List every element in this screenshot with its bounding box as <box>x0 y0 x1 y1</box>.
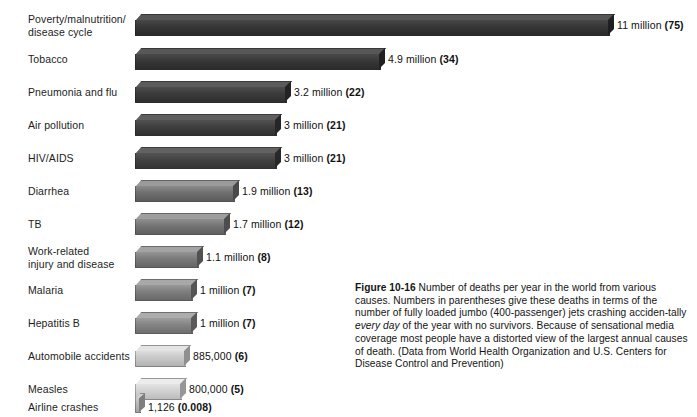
value-text: 3.2 million <box>294 86 342 98</box>
bar-3d-body <box>135 345 185 367</box>
value-text: 1,126 <box>148 401 175 413</box>
value-label: 3 million (21) <box>284 152 346 164</box>
bar-3d-body <box>135 213 225 235</box>
bar-front-face <box>135 219 226 235</box>
category-label: Pneumonia and flu <box>28 86 132 99</box>
value-text: 1.9 million <box>242 185 290 197</box>
bar-front-face <box>135 54 381 70</box>
value-text: 1.1 million <box>206 251 254 263</box>
bar-3d-body <box>135 14 609 36</box>
value-paren: (34) <box>439 53 458 65</box>
bar-hepatitis-b <box>135 312 192 334</box>
category-label: Measles <box>28 383 132 396</box>
chart-row: Air pollution 3 million (21) <box>0 108 697 142</box>
value-label: 1.1 million (8) <box>206 251 271 263</box>
value-paren: (22) <box>345 86 364 98</box>
value-text: 1.7 million <box>233 218 281 230</box>
category-label: Malaria <box>28 284 132 297</box>
value-paren: (0.008) <box>178 401 212 413</box>
category-label: Diarrhea <box>28 185 132 198</box>
value-paren: (8) <box>257 251 270 263</box>
bar-air-pollution <box>135 114 276 136</box>
value-text: 800,000 <box>189 383 228 395</box>
value-label: 800,000 (5) <box>189 383 244 395</box>
value-paren: (6) <box>235 350 248 362</box>
bar-poverty-malnutrition-disease-cycle <box>135 14 609 36</box>
chart-row: Pneumonia and flu 3.2 million (22) <box>0 75 697 109</box>
bar-3d-body <box>135 312 192 334</box>
category-label: Airline crashes <box>28 401 132 414</box>
value-label: 3.2 million (22) <box>294 86 364 98</box>
category-label: Automobile accidents <box>28 350 132 363</box>
caption-emphasis: every day <box>355 320 400 331</box>
bar-front-face <box>135 20 610 36</box>
chart-row: Airline crashes 1,126 (0.008) <box>0 405 697 417</box>
value-text: 1 million <box>200 284 239 296</box>
value-paren: (13) <box>293 185 312 197</box>
bar-front-face <box>135 318 193 334</box>
value-paren: (21) <box>326 119 345 131</box>
bar-malaria <box>135 279 192 301</box>
value-text: 3 million <box>284 152 323 164</box>
figure-number: Figure 10-16 <box>355 282 416 293</box>
bar-3d-body <box>135 279 192 301</box>
value-label: 1,126 (0.008) <box>148 401 212 413</box>
bar-3d-body <box>135 81 286 103</box>
bar-front-face <box>135 153 277 169</box>
bar-hiv-aids <box>135 147 276 169</box>
bar-automobile-accidents <box>135 345 185 367</box>
value-paren: (12) <box>284 218 303 230</box>
bar-front-face <box>135 351 186 367</box>
bar-airline-crashes <box>135 393 140 413</box>
figure-caption: Figure 10-16 Number of deaths per year i… <box>355 282 691 371</box>
value-paren: (7) <box>242 284 255 296</box>
chart-row: Diarrhea 1.9 million (13) <box>0 174 697 208</box>
bar-diarrhea <box>135 180 234 202</box>
category-label: HIV/AIDS <box>28 152 132 165</box>
category-label: Air pollution <box>28 119 132 132</box>
bar-tb <box>135 213 225 235</box>
value-label: 1 million (7) <box>200 284 256 296</box>
value-text: 1 million <box>200 317 239 329</box>
category-label: TB <box>28 218 132 231</box>
value-label: 885,000 (6) <box>193 350 248 362</box>
value-text: 885,000 <box>193 350 232 362</box>
value-label: 3 million (21) <box>284 119 346 131</box>
bar-front-face <box>135 186 235 202</box>
bar-3d-body <box>135 114 276 136</box>
bar-3d-body <box>135 246 198 268</box>
chart-row: Work-relatedinjury and disease 1.1 milli… <box>0 240 697 274</box>
value-text: 4.9 million <box>388 53 436 65</box>
value-label: 4.9 million (34) <box>388 53 458 65</box>
value-label: 1.7 million (12) <box>233 218 303 230</box>
caption-text-part-2: of the year with no survivors. Because o… <box>355 320 688 369</box>
chart-row: HIV/AIDS 3 million (21) <box>0 141 697 175</box>
value-label: 11 million (75) <box>617 19 684 31</box>
category-label: Hepatitis B <box>28 317 132 330</box>
category-label: Work-relatedinjury and disease <box>28 245 132 270</box>
value-paren: (21) <box>326 152 345 164</box>
value-label: 1.9 million (13) <box>242 185 312 197</box>
value-label: 1 million (7) <box>200 317 256 329</box>
value-text: 3 million <box>284 119 323 131</box>
bar-pneumonia-and-flu <box>135 81 286 103</box>
value-text: 11 million <box>617 19 662 31</box>
bar-3d-body <box>135 393 140 413</box>
bar-front-face <box>135 252 199 268</box>
bar-3d-body <box>135 147 276 169</box>
bar-3d-body <box>135 48 380 70</box>
value-paren: (5) <box>231 383 244 395</box>
bar-work-related-injury-and-disease <box>135 246 198 268</box>
bar-front-face <box>135 285 193 301</box>
bar-tobacco <box>135 48 380 70</box>
bar-3d-body <box>135 180 234 202</box>
category-label: Poverty/malnutrition/disease cycle <box>28 13 132 38</box>
chart-row: Poverty/malnutrition/disease cycle 11 mi… <box>0 8 697 42</box>
value-paren: (75) <box>665 19 684 31</box>
bar-front-face <box>135 87 287 103</box>
chart-row: Tobacco 4.9 million (34) <box>0 42 697 76</box>
chart-row: TB 1.7 million (12) <box>0 207 697 241</box>
bar-front-face <box>135 120 277 136</box>
value-paren: (7) <box>242 317 255 329</box>
